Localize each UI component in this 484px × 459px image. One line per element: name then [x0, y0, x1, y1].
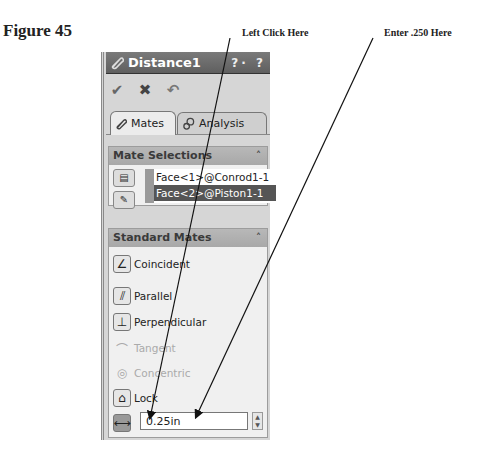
- mate-distance-button[interactable]: ⟷: [113, 413, 134, 433]
- ok-button[interactable]: ✔: [108, 81, 126, 99]
- paperclip-icon: [110, 56, 124, 70]
- mate-parallel[interactable]: ⫽ Parallel: [113, 286, 172, 306]
- mate-coincident[interactable]: ∠ Coincident: [113, 254, 190, 274]
- tab-label: Mates: [131, 117, 164, 130]
- help-icon[interactable]: ?· ?: [231, 52, 266, 74]
- undo-icon: ↶: [167, 81, 180, 99]
- mate-pin-icon[interactable]: ✎: [113, 191, 135, 209]
- standard-mates-section: Standard Mates ˄ ∠ Coincident ⫽ Parallel…: [108, 228, 268, 438]
- callout-enter-value: Enter .250 Here: [384, 27, 452, 38]
- mate-label: Lock: [134, 392, 158, 404]
- concentric-icon: ◎: [113, 364, 131, 382]
- distance-icon: ⟷: [113, 414, 131, 432]
- chevron-up-icon[interactable]: ˄: [256, 147, 261, 165]
- mate-label: Coincident: [134, 258, 190, 270]
- feature-title: Distance1: [128, 55, 201, 70]
- paperclip-icon: [115, 118, 127, 130]
- section-title: Standard Mates: [113, 231, 212, 244]
- perpendicular-icon: ⊥: [113, 313, 131, 331]
- close-icon: ✖: [139, 81, 152, 99]
- coincident-icon: ∠: [113, 255, 131, 273]
- tab-mates[interactable]: Mates: [110, 111, 176, 135]
- mate-label: Tangent: [134, 342, 176, 354]
- lock-icon: ⌂: [113, 389, 131, 407]
- pm-tabs: Mates Analysis: [106, 110, 270, 135]
- mate-concentric: ◎ Concentric: [113, 363, 190, 383]
- chevron-up-icon[interactable]: ˄: [256, 229, 261, 247]
- callout-left-click: Left Click Here: [242, 27, 308, 38]
- undo-button[interactable]: ↶: [164, 81, 182, 99]
- tab-label: Analysis: [199, 117, 244, 130]
- entities-to-mate-icon: ▤: [113, 169, 135, 187]
- mate-label: Parallel: [134, 290, 172, 302]
- mate-perpendicular[interactable]: ⊥ Perpendicular: [113, 312, 206, 332]
- pm-toolbar: ✔ ✖ ↶: [108, 80, 182, 100]
- list-item-selected[interactable]: Face<2>@Piston1-1: [154, 185, 276, 201]
- cancel-button[interactable]: ✖: [136, 81, 154, 99]
- mate-label: Perpendicular: [134, 316, 206, 328]
- section-title: Mate Selections: [113, 149, 212, 162]
- spinner-up-icon[interactable]: ▲: [253, 413, 262, 421]
- mate-tangent: ⌒ Tangent: [113, 338, 176, 358]
- checkmark-icon: ✔: [111, 81, 124, 99]
- tab-analysis[interactable]: Analysis: [177, 112, 267, 134]
- list-item[interactable]: Face<1>@Conrod1-1: [154, 169, 276, 185]
- distance-input[interactable]: 0.25in: [140, 412, 248, 430]
- figure-label: Figure 45: [3, 21, 72, 41]
- distance-spinner[interactable]: ▲ ▼: [252, 412, 263, 430]
- tangent-icon: ⌒: [113, 339, 131, 357]
- spinner-down-icon[interactable]: ▼: [253, 421, 262, 429]
- gears-icon: [182, 117, 195, 130]
- property-manager-titlebar: Distance1 ?· ?: [106, 52, 270, 74]
- mate-lock[interactable]: ⌂ Lock: [113, 388, 158, 408]
- mate-selections-header[interactable]: Mate Selections ˄: [109, 147, 267, 165]
- standard-mates-header[interactable]: Standard Mates ˄: [109, 229, 267, 247]
- mate-selections-section: Mate Selections ˄ ▤ ✎ Face<1>@Conrod1-1 …: [108, 146, 268, 206]
- mate-selections-list[interactable]: Face<1>@Conrod1-1 Face<2>@Piston1-1: [145, 169, 276, 203]
- mate-label: Concentric: [134, 367, 190, 379]
- parallel-icon: ⫽: [113, 287, 131, 305]
